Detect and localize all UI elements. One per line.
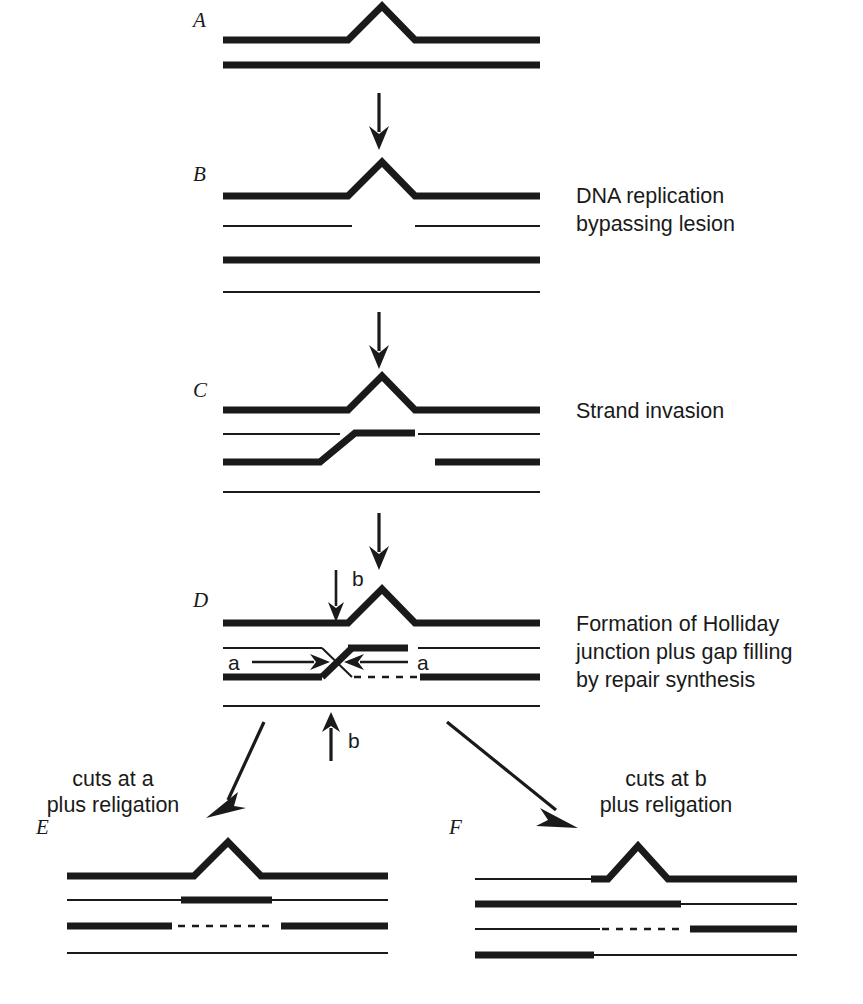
annotation-b-line-2: bypassing lesion	[576, 212, 735, 236]
annotation-c-step: Strand invasion	[576, 399, 724, 423]
right-branch-line-2: plus religation	[600, 793, 733, 817]
panel-letter-c: C	[193, 378, 208, 402]
cut-arrow-a-right	[344, 654, 408, 670]
cut-label-a-right: a	[417, 651, 429, 674]
arrow-b-to-c	[369, 312, 389, 369]
left-branch-label: cuts at a plus religation	[47, 767, 180, 817]
right-branch-line-1: cuts at b	[625, 767, 706, 791]
annotation-d-line-3: by repair synthesis	[576, 668, 755, 692]
parental-top-lesion-strand-c	[223, 376, 540, 410]
annotation-d-line-1: Formation of Holliday	[576, 612, 779, 636]
dna-recombination-diagram: A B DNA replication bypassing lesion	[0, 0, 863, 1004]
product-top-lesion-strand-f	[591, 846, 797, 879]
annotation-d-step: Formation of Holliday junction plus gap …	[575, 612, 792, 692]
invading-thick-strand-c	[223, 433, 415, 462]
panel-c: C	[193, 376, 540, 492]
panel-letter-e: E	[35, 815, 49, 839]
arrow-c-to-d	[369, 513, 389, 570]
annotation-b-line-1: DNA replication	[576, 184, 724, 208]
figure-canvas: A B DNA replication bypassing lesion	[0, 0, 863, 1004]
panel-letter-a: A	[191, 8, 206, 32]
panel-letter-f: F	[448, 815, 462, 839]
arrow-d-to-f	[447, 722, 578, 828]
arrow-d-to-e	[206, 722, 264, 818]
annotation-b-step: DNA replication bypassing lesion	[576, 184, 735, 236]
cut-arrow-a-left	[252, 654, 330, 670]
panel-a: A	[191, 6, 540, 65]
cut-arrow-b-top	[328, 570, 344, 622]
annotation-d-line-2: junction plus gap filling	[575, 640, 792, 664]
arrow-a-to-b	[369, 93, 389, 150]
cut-label-a-left: a	[228, 651, 240, 674]
parental-top-lesion-strand-a	[223, 6, 540, 40]
panel-e: E	[35, 815, 388, 953]
left-branch-line-1: cuts at a	[72, 767, 153, 791]
annotation-c-line-1: Strand invasion	[576, 399, 724, 423]
cut-label-b-top: b	[352, 567, 364, 590]
panel-d: D b a	[192, 567, 540, 706]
panel-b: B	[193, 162, 540, 292]
right-branch-label: cuts at b plus religation	[600, 767, 733, 817]
panel-f: F	[448, 815, 797, 955]
panel-letter-b: B	[193, 162, 206, 186]
parental-top-lesion-strand-d	[223, 589, 540, 623]
cut-arrow-b-bottom	[322, 712, 340, 761]
product-top-lesion-strand-e	[67, 842, 388, 876]
panel-letter-d: D	[192, 588, 208, 612]
cut-label-b-bottom: b	[348, 729, 360, 752]
left-branch-line-2: plus religation	[47, 793, 180, 817]
parental-top-lesion-strand-b	[223, 162, 540, 196]
